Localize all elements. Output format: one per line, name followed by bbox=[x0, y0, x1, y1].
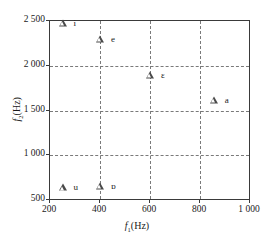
y-axis-tick bbox=[46, 110, 49, 111]
data-point-label: e bbox=[111, 34, 115, 43]
x-axis-tick-label: 1 000 bbox=[238, 205, 259, 215]
data-point-label: i bbox=[74, 19, 77, 28]
gridline-vertical bbox=[100, 21, 101, 199]
y-axis-tick-label: 2 000 bbox=[24, 60, 45, 70]
y-axis-tick bbox=[46, 154, 49, 155]
x-axis-tick-label: 200 bbox=[42, 205, 56, 215]
x-axis-tick bbox=[49, 200, 50, 203]
data-point-label: ɛ bbox=[161, 70, 165, 79]
x-axis-tick-label: 600 bbox=[142, 205, 156, 215]
data-point-label: a bbox=[225, 95, 229, 104]
y-axis-tick-label: 2 500 bbox=[24, 15, 45, 25]
y-axis-unit: (Hz) bbox=[11, 97, 22, 115]
y-axis-symbol: f bbox=[11, 119, 22, 122]
y-axis-tick-label: 1 000 bbox=[24, 150, 45, 160]
x-axis-tick bbox=[99, 200, 100, 203]
data-point-marker bbox=[210, 96, 218, 103]
x-axis-tick bbox=[249, 200, 250, 203]
plot-area: ieɛauɒ bbox=[49, 20, 250, 200]
triangle-icon bbox=[59, 184, 67, 191]
triangle-icon bbox=[59, 20, 67, 27]
x-axis-tick bbox=[149, 200, 150, 203]
y-axis-tick-label: 500 bbox=[31, 194, 45, 204]
triangle-icon bbox=[96, 35, 104, 42]
data-point-marker bbox=[96, 35, 104, 42]
gridline-vertical bbox=[200, 21, 201, 199]
data-point-marker bbox=[146, 71, 154, 78]
y-axis-subscript: 2 bbox=[17, 115, 24, 118]
x-axis-unit: (Hz) bbox=[131, 220, 149, 231]
data-point-marker bbox=[59, 20, 67, 27]
gridline-vertical bbox=[150, 21, 151, 199]
x-axis-title: f1(Hz) bbox=[0, 221, 274, 234]
x-axis-tick-label: 400 bbox=[92, 205, 106, 215]
data-point-marker bbox=[59, 184, 67, 191]
x-axis-tick bbox=[199, 200, 200, 203]
triangle-icon bbox=[146, 71, 154, 78]
y-axis-title: f2(Hz) bbox=[12, 79, 25, 139]
data-point-marker bbox=[96, 182, 104, 189]
data-point-label: ɒ bbox=[111, 181, 116, 190]
y-axis-tick-label: 1 500 bbox=[24, 105, 45, 115]
triangle-icon bbox=[210, 96, 218, 103]
triangle-icon bbox=[96, 182, 104, 189]
y-axis-tick bbox=[46, 199, 49, 200]
y-axis-tick bbox=[46, 20, 49, 21]
y-axis-tick bbox=[46, 65, 49, 66]
vowel-formant-chart: ieɛauɒ f2(Hz) f1(Hz) 2004006008001 00050… bbox=[0, 0, 274, 247]
x-axis-tick-label: 800 bbox=[192, 205, 206, 215]
data-point-label: u bbox=[74, 183, 79, 192]
